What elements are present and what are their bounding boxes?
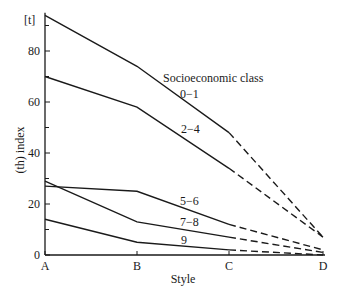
series-line-dashed-0: [229, 133, 323, 238]
series-line-solid-2: [45, 186, 229, 224]
series-label-5-6: 5−6: [180, 194, 199, 208]
x-axis-title: Style: [171, 272, 196, 286]
series-label-9: 9: [181, 233, 187, 247]
x-axis: ABCD: [41, 251, 328, 273]
y-axis-title: (th) index: [13, 127, 27, 174]
series-line-dashed-1: [229, 168, 323, 237]
series-label-7-8: 7−8: [180, 215, 199, 229]
x-tick-label-d: D: [319, 259, 328, 273]
line-chart: 020406080 ABCD [t] (th) index Style Soci…: [0, 0, 341, 299]
y-tick-label: 40: [28, 146, 40, 160]
series-label-0-1: 0−1: [180, 87, 199, 101]
y-tick-label: 80: [28, 44, 40, 58]
y-tick-label: 20: [28, 197, 40, 211]
x-tick-label-a: A: [41, 259, 50, 273]
series-line-solid-1: [45, 77, 229, 169]
x-tick-label-c: C: [225, 259, 233, 273]
series-line-solid-4: [45, 219, 229, 250]
y-unit-label: [t]: [24, 13, 35, 27]
series-line-solid-3: [45, 181, 229, 237]
series-label-2-4: 2−4: [181, 122, 200, 136]
series-line-dashed-2: [229, 224, 323, 250]
y-tick-label: 60: [28, 95, 40, 109]
x-tick-label-b: B: [133, 259, 141, 273]
y-tick-label: 0: [34, 248, 40, 262]
legend-title: Socioeconomic class: [163, 71, 264, 85]
y-axis: 020406080: [28, 13, 50, 262]
